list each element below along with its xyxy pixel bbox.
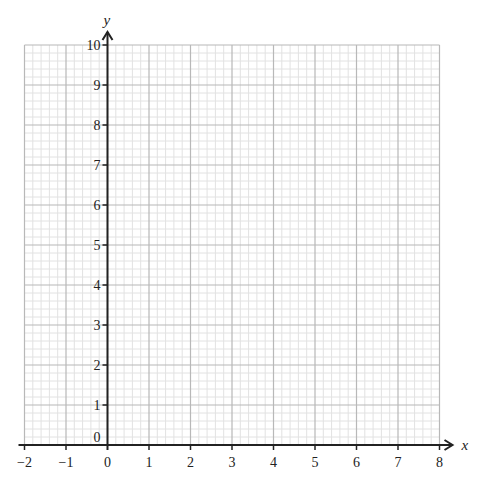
- y-tick-label: 3: [94, 318, 101, 333]
- x-tick-label: 2: [187, 455, 194, 470]
- x-tick-label: 7: [395, 455, 402, 470]
- x-axis-ticks: −2−1012345678: [17, 445, 443, 470]
- x-tick-label: 4: [270, 455, 277, 470]
- y-tick-label: 7: [94, 158, 101, 173]
- y-tick-label: 6: [94, 198, 101, 213]
- x-axis-label: x: [461, 437, 469, 453]
- y-tick-label: 4: [94, 278, 101, 293]
- y-tick-label: 8: [94, 118, 101, 133]
- y-tick-label: 10: [87, 38, 101, 53]
- x-tick-label: 6: [353, 455, 360, 470]
- y-tick-label: 5: [94, 238, 101, 253]
- y-tick-label: 2: [94, 358, 101, 373]
- x-tick-label: 3: [229, 455, 236, 470]
- x-tick-label: −1: [59, 455, 74, 470]
- x-tick-label: −2: [17, 455, 32, 470]
- y-tick-label: 9: [94, 78, 101, 93]
- x-tick-label: 8: [436, 455, 443, 470]
- major-grid-lines: [25, 45, 440, 445]
- x-tick-label: 5: [312, 455, 319, 470]
- x-tick-label: 0: [104, 455, 111, 470]
- y-tick-label: 1: [94, 398, 101, 413]
- x-tick-label: 1: [146, 455, 153, 470]
- axes: [19, 32, 453, 450]
- y-axis-label: y: [102, 12, 111, 28]
- y-axis-ticks: 012345678910: [87, 38, 108, 445]
- coordinate-grid: −2−1012345678 012345678910 x y: [0, 0, 484, 486]
- y-tick-label: 0: [94, 430, 101, 445]
